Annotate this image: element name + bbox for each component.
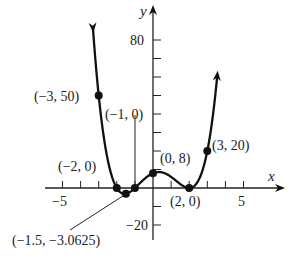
x-tick-label-5: 5 — [238, 194, 245, 209]
point-marker — [149, 169, 157, 177]
point-marker — [131, 184, 139, 192]
y-tick-label-neg20: −20 — [126, 218, 148, 233]
function-plot: x y −5 5 80 −20 (−3, 50) (−2, 0) (−1.5, … — [0, 0, 290, 265]
point-marker — [185, 184, 193, 192]
x-axis-label: x — [267, 168, 275, 184]
y-ticks — [153, 40, 161, 225]
point-label-0-8: (0, 8) — [160, 151, 191, 167]
point-label-m3-50: (−3, 50) — [34, 89, 80, 105]
point-label-m1.5: (−1.5, −3.0625) — [12, 233, 100, 249]
point-marker — [203, 147, 211, 155]
x-tick-label-neg5: −5 — [52, 194, 67, 209]
point-label-3-20: (3, 20) — [212, 138, 250, 154]
point-label-m2-0: (−2, 0) — [58, 159, 97, 175]
point-marker — [95, 92, 103, 100]
leader-line-m15 — [70, 194, 126, 230]
point-label-m1-0: (−1, 0) — [105, 107, 144, 123]
point-label-2-0: (2, 0) — [170, 194, 201, 210]
point-marker — [113, 184, 121, 192]
point-marker — [122, 190, 130, 198]
y-axis-label: y — [138, 3, 147, 19]
y-tick-label-80: 80 — [130, 33, 144, 48]
